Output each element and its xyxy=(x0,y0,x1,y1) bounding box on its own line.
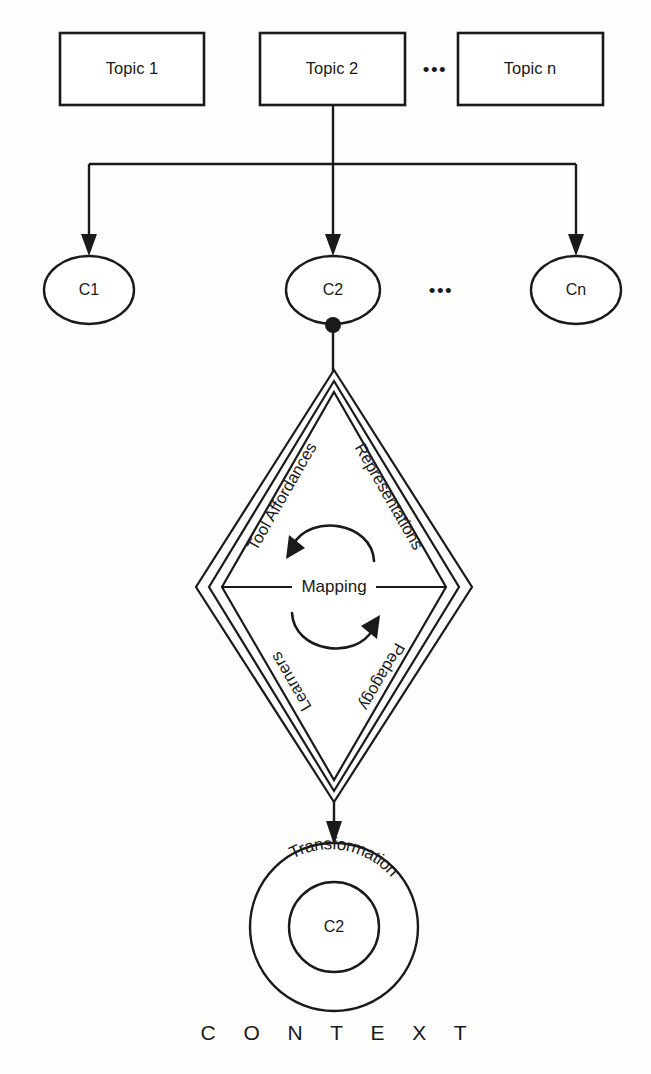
concept-row: C1 C2 ••• Cn xyxy=(44,256,621,324)
topic-box-1-label: Topic 1 xyxy=(106,59,158,77)
topic-row: Topic 1 Topic 2 ••• Topic n xyxy=(60,33,603,105)
mapping-center-label: Mapping xyxy=(301,577,366,596)
arrowhead-cn xyxy=(568,234,584,256)
transformation-inner-label: C2 xyxy=(324,918,345,935)
topic-box-n-label: Topic n xyxy=(504,59,556,77)
arrowhead-c1 xyxy=(81,234,97,256)
diagram-svg: Topic 1 Topic 2 ••• Topic n C xyxy=(0,0,651,1074)
topic-box-2-label: Topic 2 xyxy=(306,59,358,77)
concept-to-diamond-connector xyxy=(325,317,341,372)
concept-ellipse-cn-label: Cn xyxy=(566,281,586,298)
concept-ellipse-c2-label: C2 xyxy=(323,281,344,298)
arrowhead-c2 xyxy=(325,234,341,256)
context-caption: C O N T E X T xyxy=(200,1021,477,1044)
transformation-node[interactable]: Transformation C2 xyxy=(250,835,418,1011)
concept-ellipse-c1-label: C1 xyxy=(79,281,100,298)
concept-row-ellipsis: ••• xyxy=(429,280,453,301)
topic-to-concept-connectors xyxy=(81,105,584,256)
diagram-canvas: Topic 1 Topic 2 ••• Topic n C xyxy=(0,0,651,1074)
topic-row-ellipsis: ••• xyxy=(423,59,447,80)
